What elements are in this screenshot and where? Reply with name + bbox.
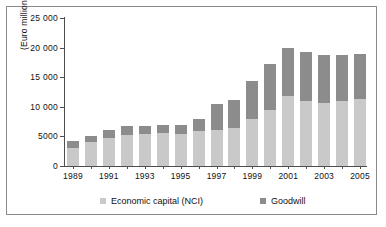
bar-segment-economic-capital: [336, 101, 348, 166]
legend-item-economic-capital: Economic capital (NCI): [100, 196, 203, 206]
x-tick-mark: [324, 166, 325, 169]
x-tick-mark: [109, 166, 110, 169]
bar-2004: [336, 55, 348, 166]
x-tick-mark: [199, 166, 200, 169]
bar-segment-economic-capital: [282, 96, 294, 166]
y-tick-label: 25 000: [30, 13, 58, 23]
bar-segment-economic-capital: [103, 138, 115, 166]
bar-segment-goodwill: [211, 104, 223, 130]
bar-1992: [121, 126, 133, 166]
y-tick-label: 15 000: [30, 72, 58, 82]
bar-segment-economic-capital: [354, 99, 366, 166]
x-tick-mark: [360, 166, 361, 169]
x-tick-mark: [306, 166, 307, 169]
bar-segment-goodwill: [354, 54, 366, 100]
bar-segment-economic-capital: [300, 101, 312, 166]
x-tick-label-1997: 1997: [207, 171, 227, 181]
plot-area: [64, 18, 369, 166]
x-tick-mark: [73, 166, 74, 169]
bar-1993: [139, 126, 151, 166]
bar-segment-economic-capital: [193, 131, 205, 166]
chart-legend: Economic capital (NCI)Goodwill: [64, 196, 364, 210]
x-tick-mark: [234, 166, 235, 169]
x-tick-label-1991: 1991: [99, 171, 119, 181]
bar-segment-goodwill: [336, 55, 348, 101]
bar-2000: [264, 64, 276, 166]
x-tick-mark: [181, 166, 182, 169]
bar-segment-economic-capital: [264, 110, 276, 166]
bar-1994: [157, 125, 169, 166]
bar-segment-economic-capital: [67, 148, 79, 166]
x-tick-label-2005: 2005: [350, 171, 370, 181]
bar-2002: [300, 52, 312, 166]
x-tick-label-2001: 2001: [278, 171, 298, 181]
x-tick-mark: [145, 166, 146, 169]
bar-segment-goodwill: [139, 126, 151, 134]
x-tick-label-1995: 1995: [171, 171, 191, 181]
legend-label: Goodwill: [271, 196, 306, 206]
bar-1995: [175, 125, 187, 166]
bar-segment-economic-capital: [211, 130, 223, 166]
bar-segment-economic-capital: [228, 128, 240, 166]
bar-1990: [85, 136, 97, 166]
bar-segment-goodwill: [67, 141, 79, 148]
bar-1996: [193, 119, 205, 166]
x-tick-mark: [270, 166, 271, 169]
bar-1989: [67, 141, 79, 166]
legend-swatch-icon: [100, 198, 106, 204]
bar-1997: [211, 104, 223, 166]
x-tick-mark: [91, 166, 92, 169]
bar-segment-economic-capital: [175, 134, 187, 166]
bar-segment-economic-capital: [318, 103, 330, 166]
x-tick-label-2003: 2003: [314, 171, 334, 181]
legend-item-goodwill: Goodwill: [260, 196, 306, 206]
bar-segment-economic-capital: [157, 133, 169, 166]
x-tick-label-1999: 1999: [243, 171, 263, 181]
bar-segment-goodwill: [318, 55, 330, 102]
bar-segment-goodwill: [103, 130, 115, 138]
y-tick-label: 20 000: [30, 43, 58, 53]
y-tick-mark: [60, 166, 64, 167]
x-tick-mark: [163, 166, 164, 169]
y-tick-label: 0: [53, 161, 58, 171]
y-tick-label: 5000: [38, 131, 58, 141]
y-tick-label: 10 000: [30, 102, 58, 112]
x-tick-mark: [288, 166, 289, 169]
bar-1999: [246, 81, 258, 166]
bar-2003: [318, 55, 330, 166]
x-tick-mark: [127, 166, 128, 169]
bar-segment-goodwill: [228, 100, 240, 128]
bar-segment-goodwill: [157, 125, 169, 133]
legend-label: Economic capital (NCI): [111, 196, 203, 206]
bar-segment-goodwill: [300, 52, 312, 101]
x-tick-label-1993: 1993: [135, 171, 155, 181]
bar-segment-goodwill: [175, 125, 187, 134]
bar-segment-economic-capital: [121, 135, 133, 166]
chart-figure: (Euro million) 0500010 00015 00020 00025…: [0, 0, 386, 227]
bar-segment-goodwill: [246, 81, 258, 118]
bar-segment-goodwill: [121, 126, 133, 135]
bar-segment-economic-capital: [85, 142, 97, 166]
bar-segment-economic-capital: [246, 119, 258, 166]
legend-swatch-icon: [260, 198, 266, 204]
x-tick-mark: [252, 166, 253, 169]
bar-segment-goodwill: [264, 64, 276, 110]
bar-segment-goodwill: [193, 119, 205, 131]
x-tick-mark: [217, 166, 218, 169]
bar-1998: [228, 100, 240, 166]
bar-2005: [354, 54, 366, 166]
bar-segment-economic-capital: [139, 134, 151, 166]
x-tick-mark: [342, 166, 343, 169]
bar-2001: [282, 48, 294, 166]
y-axis-title: (Euro million): [19, 0, 29, 50]
bar-segment-goodwill: [282, 48, 294, 96]
x-tick-label-1989: 1989: [63, 171, 83, 181]
bar-1991: [103, 130, 115, 166]
